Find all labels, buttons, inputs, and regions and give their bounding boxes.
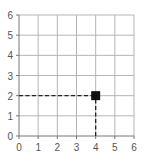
y-tick-label: 2 (7, 91, 13, 102)
x-tick-label: 6 (131, 142, 137, 153)
x-tick-label: 5 (112, 142, 118, 153)
x-tick-label: 1 (35, 142, 41, 153)
y-tick-labels: 0123456 (7, 10, 13, 142)
x-tick-labels: 0123456 (16, 142, 137, 153)
chart-canvas: 0123456 0123456 (0, 0, 156, 163)
y-tick-label: 6 (7, 10, 13, 21)
x-tick-label: 0 (16, 142, 22, 153)
y-tick-label: 5 (7, 30, 13, 41)
y-tick-label: 3 (7, 71, 13, 82)
x-tick-label: 3 (74, 142, 80, 153)
y-tick-label: 4 (7, 50, 13, 61)
y-tick-label: 0 (7, 131, 13, 142)
data-points (91, 91, 100, 100)
square-marker (91, 91, 100, 100)
axes (16, 15, 134, 139)
x-tick-label: 2 (55, 142, 61, 153)
grid (19, 15, 134, 136)
x-tick-label: 4 (93, 142, 99, 153)
y-tick-label: 1 (7, 111, 13, 122)
